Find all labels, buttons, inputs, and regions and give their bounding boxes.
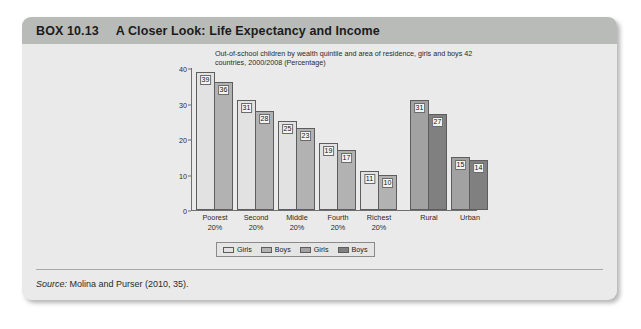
box-panel: BOX 10.13 A Closer Look: Life Expectancy…: [22, 17, 617, 300]
x-axis-label-line: 20%: [286, 223, 308, 233]
box-title: A Closer Look: Life Expectancy and Incom…: [116, 24, 380, 38]
bar: 36: [214, 82, 233, 210]
bar-value-label: 10: [382, 178, 394, 188]
bar: 39: [196, 72, 215, 210]
x-axis-label: Poorest20%: [202, 213, 227, 232]
bar: 17: [337, 150, 356, 210]
x-axis-label: Middle20%: [286, 213, 308, 232]
x-axis-label-line: Fourth: [327, 213, 348, 223]
bar-value-label: 17: [341, 153, 353, 163]
y-tick-label: 20: [179, 136, 187, 145]
legend-swatch: [223, 247, 234, 253]
y-tick-mark: [188, 140, 191, 141]
bar-value-label: 19: [323, 146, 335, 156]
bar: 25: [278, 121, 297, 210]
bar-series-container: 3936312825231917111031271514: [192, 68, 477, 210]
x-axis-label-line: Second: [244, 213, 269, 223]
legend-item: Boys: [338, 245, 368, 254]
bar: 27: [428, 114, 447, 210]
legend-label: Boys: [352, 245, 368, 254]
x-axis-label: Richest20%: [367, 213, 391, 232]
x-axis-label-line: Middle: [286, 213, 308, 223]
x-axis-label: Rural: [420, 213, 437, 223]
legend-swatch: [300, 247, 311, 253]
source-label: Source:: [36, 279, 67, 289]
x-axis-label-line: Urban: [460, 213, 480, 223]
legend-item: Girls: [223, 245, 252, 254]
x-axis-label-line: 20%: [244, 223, 269, 233]
y-tick-mark: [188, 211, 191, 212]
bar: 15: [451, 157, 470, 210]
bar: 10: [378, 175, 397, 211]
bar-value-label: 36: [218, 85, 230, 95]
source-divider: [36, 269, 603, 270]
legend-label: Boys: [275, 245, 291, 254]
legend-label: Girls: [237, 245, 252, 254]
x-axis-label-line: Richest: [367, 213, 391, 223]
plot-area: 010203040 3936312825231917111031271514: [191, 68, 477, 211]
chart-title: Out-of-school children by wealth quintil…: [215, 49, 477, 68]
bar: 23: [296, 128, 315, 210]
source-citation: Molina and Purser (2010, 35).: [70, 279, 189, 289]
bar: 11: [360, 171, 379, 210]
x-axis-label-line: 20%: [367, 223, 391, 233]
legend-item: Girls: [300, 245, 329, 254]
y-tick-label: 30: [179, 100, 187, 109]
x-axis-label: Fourth20%: [327, 213, 348, 232]
y-tick-mark: [188, 104, 191, 105]
y-tick-label: 0: [183, 207, 187, 216]
bar-value-label: 11: [364, 174, 375, 184]
bar: 19: [319, 143, 338, 210]
legend-label: Girls: [314, 245, 329, 254]
y-tick-label: 10: [179, 171, 187, 180]
box-header: BOX 10.13 A Closer Look: Life Expectancy…: [22, 17, 617, 44]
bar-value-label: 25: [282, 124, 294, 134]
source-line: Source: Molina and Purser (2010, 35).: [36, 279, 189, 289]
bar: 14: [469, 160, 488, 210]
x-axis-line: [191, 210, 477, 211]
bar: 28: [255, 111, 274, 210]
x-axis-label-line: 20%: [202, 223, 227, 233]
bar-value-label: 28: [259, 114, 271, 124]
bar-value-label: 27: [432, 117, 444, 127]
bar-value-label: 39: [200, 75, 212, 85]
box-number: BOX 10.13: [36, 24, 99, 38]
y-tick-label: 40: [179, 65, 187, 74]
bar-value-label: 14: [473, 163, 485, 173]
legend-swatch: [261, 247, 272, 253]
legend-item: Boys: [261, 245, 291, 254]
x-axis-label-line: Rural: [420, 213, 437, 223]
bar-value-label: 15: [455, 160, 467, 170]
bar: 31: [237, 100, 256, 210]
bar-value-label: 31: [414, 103, 426, 113]
y-tick-mark: [188, 69, 191, 70]
chart-legend: GirlsBoysGirlsBoys: [216, 242, 375, 257]
y-tick-mark: [188, 175, 191, 176]
x-axis-label: Second20%: [244, 213, 269, 232]
bar: 31: [410, 100, 429, 210]
chart: Out-of-school children by wealth quintil…: [159, 46, 477, 265]
x-axis-label-line: 20%: [327, 223, 348, 233]
x-axis-label: Urban: [460, 213, 480, 223]
legend-swatch: [338, 247, 349, 253]
bar-value-label: 31: [241, 103, 253, 113]
x-axis-labels: Poorest20%Second20%Middle20%Fourth20%Ric…: [192, 213, 477, 237]
bar-value-label: 23: [300, 131, 312, 141]
x-axis-label-line: Poorest: [202, 213, 227, 223]
